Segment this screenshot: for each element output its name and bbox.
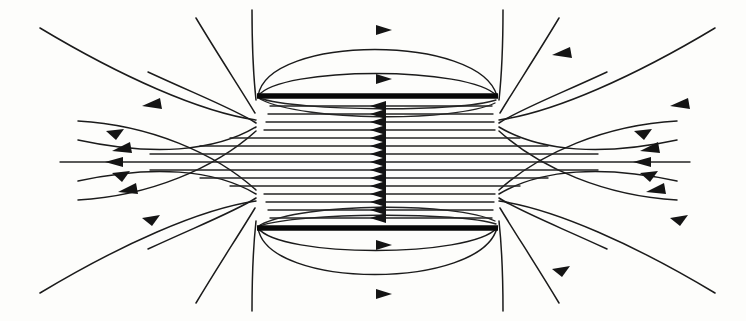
capacitor-field-figure [0,0,746,321]
field-line-diagram [0,0,746,321]
